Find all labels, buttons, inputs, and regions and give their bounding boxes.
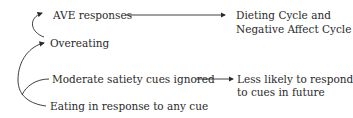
node-eating-any-cue: Eating in response to any cue (50, 100, 208, 112)
node-dieting-line1: Dieting Cycle and (236, 9, 331, 21)
branch-moderate (22, 79, 49, 95)
node-overeating: Overeating (50, 37, 109, 49)
node-dieting-line2: Negative Affect Cycle (236, 23, 351, 35)
node-moderate-satiety: Moderate satiety cues ignored (52, 73, 215, 85)
node-less-likely-line2: to cues in future (237, 86, 325, 98)
arrow-eating-to-overeating (18, 43, 46, 106)
node-less-likely-line1: Less likely to respond (237, 73, 353, 85)
node-ave-responses: AVE responses (53, 9, 132, 21)
arrow-overeating-to-ave (32, 13, 44, 37)
